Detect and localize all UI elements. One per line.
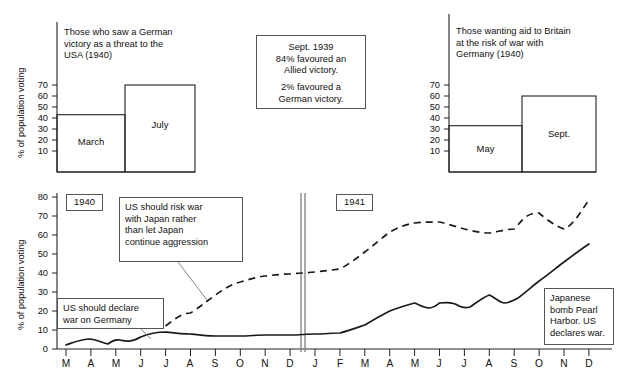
- xtick-label-3: J: [129, 358, 153, 369]
- top-right-ytick-60: 60: [414, 91, 440, 101]
- callout-japan-text: US should risk war with Japan rather tha…: [120, 198, 242, 249]
- callout-pearl-harbor: Japanese bomb Pearl Harbor. US declares …: [544, 288, 614, 345]
- callout-germany-text: US should declare war on Germany: [58, 299, 163, 326]
- xtick-label-9: D: [278, 358, 302, 369]
- callout-pearl-harbor-text: Japanese bomb Pearl Harbor. US declares …: [545, 289, 613, 340]
- main-ytick-80: 80: [22, 192, 48, 202]
- top-left-ytick-50: 50: [22, 102, 48, 112]
- main-ytick-0: 0: [22, 344, 48, 354]
- xtick-label-0: M: [54, 358, 78, 369]
- top-right-chart-annotation: Those wanting aid to Britain at the risk…: [456, 26, 571, 61]
- xtick-label-5: A: [178, 358, 202, 369]
- top-right-ytick-30: 30: [414, 124, 440, 134]
- xtick-label-20: N: [552, 358, 576, 369]
- leader-line-japan: [178, 262, 207, 300]
- top-right-ytick-20: 20: [414, 135, 440, 145]
- xtick-label-6: S: [203, 358, 227, 369]
- xtick-label-19: O: [527, 358, 551, 369]
- xtick-label-4: J: [154, 358, 178, 369]
- xtick-label-8: N: [253, 358, 277, 369]
- top-right-ytick-50: 50: [414, 102, 440, 112]
- sept-1939-line2: 84% favoured an: [263, 54, 359, 66]
- top-left-ytick-20: 20: [22, 135, 48, 145]
- sept-1939-line3: Allied victory.: [263, 65, 359, 77]
- main-ytick-60: 60: [22, 230, 48, 240]
- year-label-1940: 1940: [66, 194, 103, 211]
- xtick-label-1: A: [79, 358, 103, 369]
- chart-page: % of population voting 70 60 50 40 30 20…: [0, 0, 622, 378]
- main-ytick-70: 70: [22, 211, 48, 221]
- xtick-label-7: O: [228, 358, 252, 369]
- xtick-label-11: F: [328, 358, 352, 369]
- top-left-ytick-40: 40: [22, 113, 48, 123]
- sept-1939-line1: Sept. 1939: [263, 42, 359, 54]
- main-ytick-50: 50: [22, 249, 48, 259]
- callout-japan-aggression: US should risk war with Japan rather tha…: [119, 197, 243, 262]
- xtick-label-17: A: [477, 358, 501, 369]
- bar-label-march: March: [57, 136, 125, 147]
- sept-1939-note-box: Sept. 1939 84% favoured an Allied victor…: [256, 35, 366, 109]
- top-left-ytick-10: 10: [22, 146, 48, 156]
- top-left-chart-annotation: Those who saw a German victory as a thre…: [64, 27, 173, 62]
- main-ytick-40: 40: [22, 268, 48, 278]
- callout-declare-war-germany: US should declare war on Germany: [57, 298, 164, 329]
- bar-label-sept: Sept.: [522, 128, 596, 139]
- xtick-label-14: M: [403, 358, 427, 369]
- xtick-label-10: J: [303, 358, 327, 369]
- top-right-ytick-40: 40: [414, 113, 440, 123]
- top-right-ytick-70: 70: [414, 80, 440, 90]
- main-ytick-30: 30: [22, 287, 48, 297]
- top-left-ytick-70: 70: [22, 80, 48, 90]
- sept-1939-line5: German victory.: [263, 94, 359, 106]
- xtick-label-13: A: [378, 358, 402, 369]
- top-right-ytick-10: 10: [414, 146, 440, 156]
- sept-1939-line4: 2% favoured a: [263, 82, 359, 94]
- xtick-label-15: J: [427, 358, 451, 369]
- bar-label-may: May: [449, 143, 522, 154]
- bar-label-july: July: [125, 119, 195, 130]
- top-left-ytick-30: 30: [22, 124, 48, 134]
- xtick-label-12: M: [353, 358, 377, 369]
- main-ytick-20: 20: [22, 306, 48, 316]
- xtick-label-2: M: [104, 358, 128, 369]
- xtick-label-21: D: [577, 358, 601, 369]
- main-ytick-10: 10: [22, 325, 48, 335]
- top-left-ytick-60: 60: [22, 91, 48, 101]
- xtick-label-16: J: [452, 358, 476, 369]
- xtick-label-18: S: [502, 358, 526, 369]
- year-label-1941: 1941: [336, 194, 373, 211]
